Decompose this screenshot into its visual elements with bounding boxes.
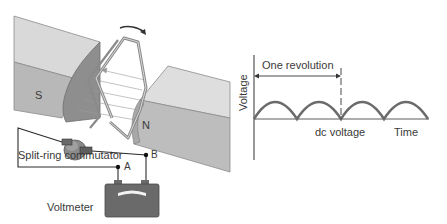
- terminal-b-label: B: [151, 150, 158, 160]
- north-pole-label: N: [142, 120, 150, 131]
- voltmeter: [105, 180, 159, 217]
- terminal-a-label: A: [124, 162, 131, 172]
- figure-svg: [0, 0, 447, 224]
- rotation-arrow: [120, 27, 144, 32]
- terminal-b-dot: [144, 153, 148, 157]
- one-revolution-label: One revolution: [262, 60, 334, 71]
- south-pole-label: S: [35, 90, 42, 101]
- dc-generator-figure: S N Split-ring commutator A B Voltmeter …: [0, 0, 447, 224]
- commutator-label: Split-ring commutator: [18, 150, 123, 161]
- south-magnet: [14, 16, 100, 122]
- brush-a: [62, 139, 72, 145]
- dc-voltage-label: dc voltage: [315, 127, 365, 138]
- voltmeter-label: Voltmeter: [47, 202, 93, 213]
- x-axis-label: Time: [394, 127, 418, 138]
- y-axis-label: Voltage: [238, 74, 249, 111]
- terminal-a-dot: [116, 165, 120, 169]
